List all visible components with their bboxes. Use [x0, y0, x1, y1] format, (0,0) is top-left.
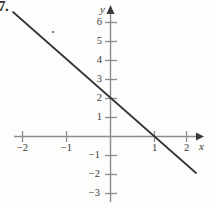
y-axis-label: y	[100, 4, 105, 15]
y-tick-label--3: −3	[84, 188, 100, 199]
y-tick-label-4: 4	[86, 55, 102, 66]
scan-speck	[52, 31, 54, 33]
line-graph-y-equals-minus-2x-plus-2	[13, 12, 196, 173]
x-tick-label-2: 2	[178, 143, 196, 154]
x-tick-label--1: −1	[58, 143, 76, 154]
y-tick-label-2: 2	[86, 93, 102, 104]
x-tick-label--2: −2	[14, 143, 32, 154]
y-tick-label-3: 3	[86, 74, 102, 85]
graph-figure: 7. y x −2 −1 1 2 6 5 4 3 2 1 −1	[0, 0, 210, 206]
y-tick-label-6: 6	[86, 17, 102, 28]
x-axis-label: x	[199, 141, 204, 152]
y-tick-label-5: 5	[86, 36, 102, 47]
coordinate-plane	[0, 0, 210, 206]
y-axis-arrow-icon	[107, 5, 115, 14]
y-tick-label--2: −2	[84, 169, 100, 180]
y-tick-label--1: −1	[84, 150, 100, 161]
x-tick-label-1: 1	[146, 143, 164, 154]
y-tick-label-1: 1	[86, 112, 102, 123]
